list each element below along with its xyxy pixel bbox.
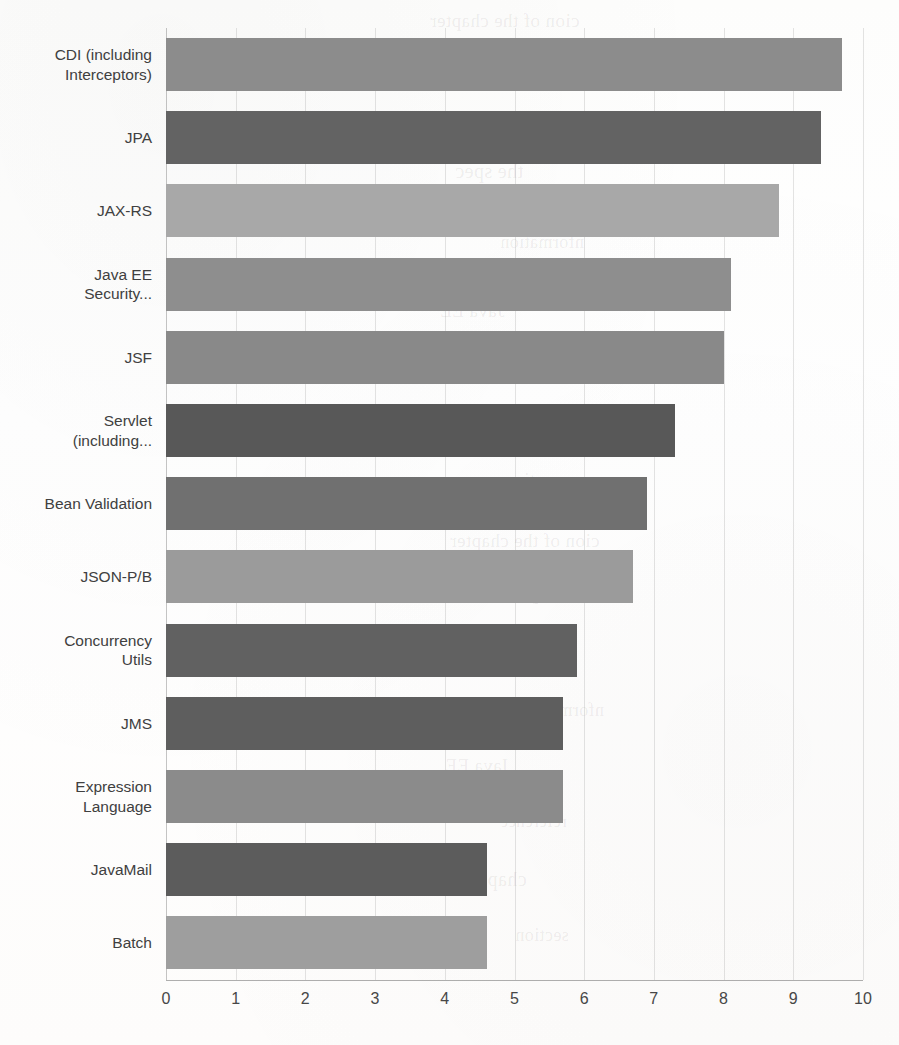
bar-row [166, 906, 863, 979]
category-label-line: Security... [84, 284, 152, 304]
bar-row [166, 614, 863, 687]
bar[interactable] [166, 331, 724, 384]
category-label: JSON-P/B [0, 540, 152, 613]
bar[interactable] [166, 697, 563, 750]
bar[interactable] [166, 477, 647, 530]
category-label-line: CDI (including [55, 45, 152, 65]
bar-row [166, 28, 863, 101]
category-label: JAX-RS [0, 174, 152, 247]
x-tick-label-0: 0 [161, 990, 170, 1008]
bar-row [166, 321, 863, 394]
category-label: Bean Validation [0, 467, 152, 540]
bar[interactable] [166, 404, 675, 457]
category-label-line: JAX-RS [97, 201, 152, 221]
category-label: JMS [0, 687, 152, 760]
bar[interactable] [166, 770, 563, 823]
bar[interactable] [166, 184, 779, 237]
bar[interactable] [166, 258, 731, 311]
category-label: JPA [0, 101, 152, 174]
category-label: Servlet(including... [0, 394, 152, 467]
x-tick-label-7: 7 [649, 990, 658, 1008]
x-tick-label-10: 10 [854, 990, 872, 1008]
x-tick-label-3: 3 [371, 990, 380, 1008]
x-tick-label-5: 5 [510, 990, 519, 1008]
x-tick-label-2: 2 [301, 990, 310, 1008]
category-label: JavaMail [0, 833, 152, 906]
gridline-10 [863, 28, 864, 980]
bar-row [166, 833, 863, 906]
bar-row [166, 540, 863, 613]
plot-area [166, 28, 863, 980]
x-axis-tick-labels: 012345678910 [166, 990, 863, 1018]
bar-row [166, 467, 863, 540]
category-label-line: JMS [121, 714, 152, 734]
bar[interactable] [166, 550, 633, 603]
category-label-line: Batch [112, 933, 152, 953]
bar[interactable] [166, 111, 821, 164]
bar-row [166, 687, 863, 760]
category-label-line: (including... [73, 431, 152, 451]
category-label-line: Bean Validation [45, 494, 152, 514]
category-label-line: Language [75, 797, 152, 817]
horizontal-bar-chart: CDI (includingInterceptors)JPAJAX-RSJava… [0, 0, 899, 1045]
x-axis-line [166, 980, 863, 981]
category-label: Java EESecurity... [0, 248, 152, 321]
category-label-line: JSON-P/B [81, 567, 152, 587]
category-label-line: JavaMail [91, 860, 152, 880]
category-label: ConcurrencyUtils [0, 614, 152, 687]
bar[interactable] [166, 624, 577, 677]
category-label: JSF [0, 321, 152, 394]
bar-row [166, 760, 863, 833]
category-label-line: Expression [75, 777, 152, 797]
category-label-line: Java EE [84, 265, 152, 285]
category-label-line: Servlet [73, 411, 152, 431]
category-label-line: Utils [64, 650, 152, 670]
bar[interactable] [166, 916, 487, 969]
category-label: CDI (includingInterceptors) [0, 28, 152, 101]
x-tick-label-9: 9 [789, 990, 798, 1008]
bar-row [166, 101, 863, 174]
category-label: Batch [0, 906, 152, 979]
category-label-line: JPA [125, 128, 152, 148]
x-tick-label-1: 1 [231, 990, 240, 1008]
x-tick-label-4: 4 [440, 990, 449, 1008]
bar[interactable] [166, 843, 487, 896]
bar-row [166, 248, 863, 321]
x-tick-label-6: 6 [580, 990, 589, 1008]
category-label-line: JSF [124, 348, 152, 368]
bar[interactable] [166, 38, 842, 91]
bar-row [166, 174, 863, 247]
category-label-line: Concurrency [64, 631, 152, 651]
bar-row [166, 394, 863, 467]
category-axis-labels: CDI (includingInterceptors)JPAJAX-RSJava… [0, 28, 166, 980]
category-label-line: Interceptors) [55, 65, 152, 85]
x-tick-label-8: 8 [719, 990, 728, 1008]
category-label: ExpressionLanguage [0, 760, 152, 833]
